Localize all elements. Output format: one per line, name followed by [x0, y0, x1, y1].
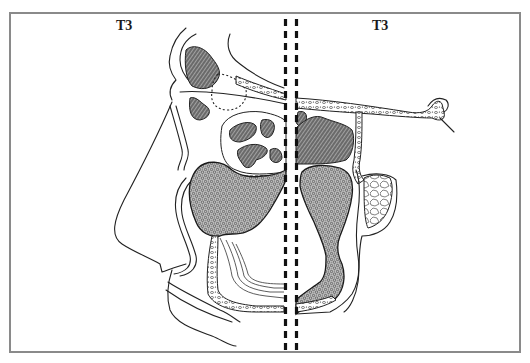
- ethmoid-sinus-left: [189, 98, 209, 120]
- maxillary-roof-cavity: [296, 116, 354, 164]
- panel-label-right: T3: [372, 18, 388, 34]
- frontal-sinus: [185, 47, 219, 89]
- left-panel-drawing: [115, 28, 286, 346]
- anatomical-illustration: [0, 0, 530, 363]
- tumor-mass-right: [296, 165, 353, 314]
- right-panel-drawing: [296, 98, 454, 314]
- zygomatic-trabecular-bone: [364, 175, 392, 228]
- panel-label-left: T3: [116, 18, 132, 34]
- nose-profile: [115, 102, 186, 272]
- panel-divider: [286, 19, 297, 350]
